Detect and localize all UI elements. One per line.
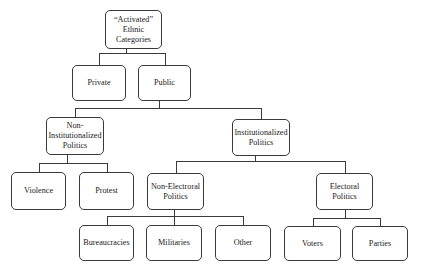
node-elect: Electoral Politics — [316, 173, 373, 210]
node-label: Non- Institutionalized Politics — [48, 121, 101, 151]
node-violence: Violence — [11, 172, 66, 210]
node-label: Bureaucracies — [83, 238, 129, 248]
connector-noninst-to-violence — [39, 163, 40, 172]
connector-elect-stem — [345, 210, 346, 218]
node-inst: Institutionalized Politics — [232, 119, 290, 156]
node-protest: Protest — [79, 172, 134, 210]
node-military: Militaries — [146, 225, 202, 261]
node-label: Parties — [369, 239, 391, 249]
connector-nonelect-to-military — [174, 216, 175, 225]
connector-elect-to-parties — [380, 218, 381, 226]
node-root: “Activated” Ethnic Categories — [105, 10, 162, 49]
node-public: Public — [138, 65, 191, 101]
connector-inst-to-elect — [345, 161, 346, 173]
connector-root-bar — [99, 53, 166, 54]
connector-nonelect-to-other — [243, 216, 244, 225]
connector-root-to-public — [165, 53, 166, 65]
node-bureau: Bureaucracies — [79, 225, 134, 261]
connector-root-to-private — [99, 53, 100, 65]
connector-public-to-noninst — [75, 108, 76, 117]
node-noninst: Non- Institutionalized Politics — [46, 117, 104, 155]
node-label: Protest — [95, 186, 118, 196]
connector-public-bar — [75, 108, 262, 109]
connector-noninst-bar — [39, 163, 108, 164]
node-private: Private — [72, 65, 126, 101]
connector-public-stem — [159, 101, 160, 108]
connector-elect-to-voters — [313, 218, 314, 226]
node-label: Institutionalized Politics — [234, 128, 287, 148]
connector-inst-to-nonelect — [176, 161, 177, 173]
node-label: Electoral Politics — [330, 182, 360, 202]
connector-public-to-inst — [261, 108, 262, 119]
connector-noninst-to-protest — [107, 163, 108, 172]
node-label: Militaries — [158, 238, 190, 248]
node-nonelect: Non-Electroral Politics — [147, 173, 204, 210]
node-label: Other — [234, 238, 253, 248]
node-other: Other — [215, 225, 271, 261]
node-parties: Parties — [352, 226, 408, 261]
node-label: Voters — [302, 239, 323, 249]
connector-inst-bar — [176, 161, 346, 162]
node-label: Public — [154, 78, 175, 88]
connector-nonelect-to-bureau — [107, 216, 108, 225]
node-label: Private — [87, 78, 110, 88]
node-label: Non-Electroral Politics — [151, 182, 200, 202]
node-label: “Activated” Ethnic Categories — [114, 15, 153, 45]
connector-noninst-stem — [67, 155, 68, 163]
node-label: Violence — [24, 186, 53, 196]
connector-elect-bar — [313, 218, 381, 219]
node-voters: Voters — [284, 226, 341, 261]
connector-nonelect-bar — [107, 216, 244, 217]
ethnic-categories-tree-diagram: “Activated” Ethnic CategoriesPrivatePubl… — [0, 0, 421, 272]
